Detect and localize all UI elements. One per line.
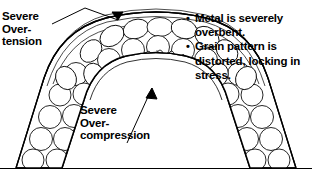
bullet-dot-icon: • [186, 11, 195, 25]
bullet-text: Metal is severely overbent. [195, 11, 312, 39]
bullet-dot-icon: • [186, 39, 195, 53]
severe-overtension-label: Severe Over- tension [2, 10, 42, 48]
bullet-list: • Metal is severely overbent. • Grain pa… [186, 11, 312, 82]
severe-overcompression-label: Severe Over- compression [80, 104, 150, 142]
diagram-canvas: Severe Over- tension Severe Over- compre… [0, 0, 312, 177]
figure-bottom-rule [0, 168, 312, 169]
list-item: • Metal is severely overbent. [186, 11, 312, 39]
list-item: • Grain pattern is distorted, locking in… [186, 39, 312, 82]
bullet-text: Grain pattern is distorted, locking in s… [195, 39, 312, 82]
